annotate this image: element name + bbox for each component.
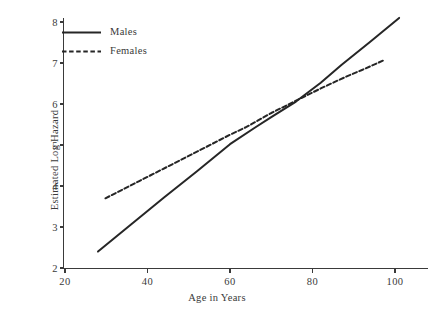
x-axis-ticks <box>65 269 395 273</box>
y-axis-ticks <box>60 22 64 268</box>
x-tick-label: 20 <box>59 276 70 287</box>
legend-item-females: Females <box>110 45 147 56</box>
series-line-females <box>105 60 385 199</box>
x-tick-label: 60 <box>224 276 235 287</box>
y-tick-label: 7 <box>40 58 58 69</box>
legend-item-males: Males <box>110 26 137 37</box>
x-tick-label: 40 <box>142 276 153 287</box>
y-axis-title: Estimated Log Hazard <box>49 109 60 209</box>
y-tick-label: 6 <box>40 99 58 110</box>
y-tick-label: 3 <box>40 222 58 233</box>
x-tick-label: 100 <box>387 276 404 287</box>
y-tick-label: 8 <box>40 17 58 28</box>
chart-container: 2345678 20406080100 Age in Years Estimat… <box>0 0 434 319</box>
legend-swatches <box>62 33 101 52</box>
x-axis-title: Age in Years <box>188 292 246 303</box>
x-tick-label: 80 <box>307 276 318 287</box>
y-tick-label: 2 <box>40 263 58 274</box>
chart-plot-area <box>0 0 434 319</box>
